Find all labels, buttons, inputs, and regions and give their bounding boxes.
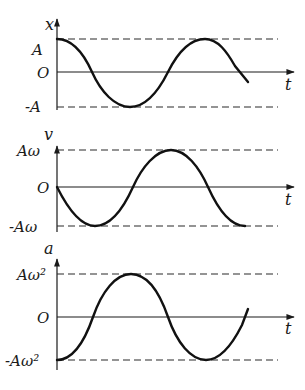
a-t-label: t <box>285 319 292 338</box>
velocity-panel: v Aω O -Aω t <box>9 125 294 236</box>
v-max-label: Aω <box>15 142 40 160</box>
v-origin-label: O <box>37 179 49 197</box>
x-min-label: -A <box>25 98 41 116</box>
x-t-label: t <box>285 75 292 94</box>
a-min-label: -Aω² <box>5 352 39 370</box>
displacement-panel: x A O -A t <box>25 15 294 116</box>
v-axis-label: v <box>44 125 53 144</box>
v-min-label: -Aω <box>9 218 37 236</box>
shm-graphs: x A O -A t v Aω O -Aω t a Aω² O -Aω² t <box>0 0 305 390</box>
velocity-curve <box>57 150 245 226</box>
v-t-label: t <box>285 190 292 209</box>
acceleration-panel: a Aω² O -Aω² t <box>5 239 294 370</box>
a-max-label: Aω² <box>15 266 46 284</box>
a-origin-label: O <box>37 309 49 327</box>
x-axis-label: x <box>45 15 54 34</box>
a-axis-label: a <box>44 239 54 258</box>
x-origin-label: O <box>37 64 49 82</box>
displacement-curve <box>57 39 248 107</box>
x-max-label: A <box>30 41 43 59</box>
